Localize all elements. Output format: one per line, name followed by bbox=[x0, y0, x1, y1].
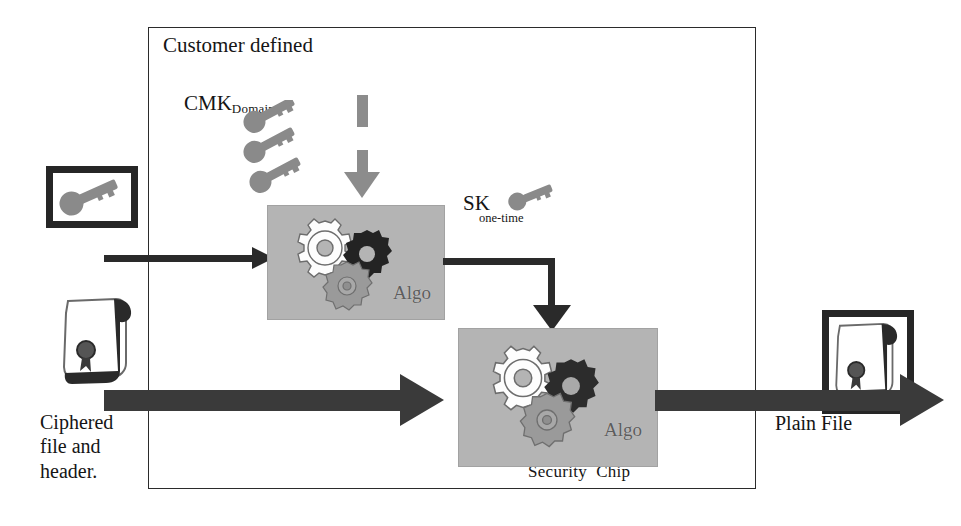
algo-label-upper: Algo bbox=[393, 282, 431, 304]
plain-file-arrow-head-icon bbox=[900, 374, 944, 426]
sk-transfer-arrow-horizontal bbox=[443, 258, 555, 265]
framed-key-box bbox=[46, 166, 138, 228]
algo-label-lower: Algo bbox=[604, 419, 642, 441]
plain-file-arrow-shaft bbox=[655, 390, 907, 411]
key-icon bbox=[236, 100, 346, 200]
cmk-arrow-head-icon bbox=[344, 172, 380, 198]
sealed-scroll-icon bbox=[56, 293, 142, 389]
ciphered-file-arrow-shaft bbox=[104, 390, 404, 411]
algo-box-lower: Algo bbox=[458, 328, 658, 467]
sealed-scroll-icon-left bbox=[56, 293, 142, 389]
cipher-input-arrow-shaft bbox=[104, 255, 256, 262]
ciphered-file-arrow-head-icon bbox=[400, 374, 444, 426]
cmk-main-text: CMK bbox=[184, 91, 232, 115]
cmk-keys-group bbox=[236, 100, 346, 200]
gear-icon bbox=[516, 390, 578, 450]
algo-box-upper: Algo bbox=[267, 205, 445, 320]
diagram-canvas: Customer defined CMKDomain SKone-time Ci… bbox=[0, 0, 961, 526]
ciphered-file-label: Ciphered file and header. bbox=[40, 410, 113, 483]
gear-icon bbox=[319, 259, 375, 313]
customer-defined-label: Customer defined bbox=[163, 33, 313, 57]
key-icon bbox=[53, 173, 131, 221]
sk-key-icon bbox=[505, 178, 557, 216]
key-icon bbox=[505, 178, 557, 216]
sk-transfer-arrow-vertical bbox=[548, 258, 555, 310]
cmk-arrow-dash-segment bbox=[357, 95, 368, 127]
plain-file-label: Plain File bbox=[775, 412, 852, 435]
